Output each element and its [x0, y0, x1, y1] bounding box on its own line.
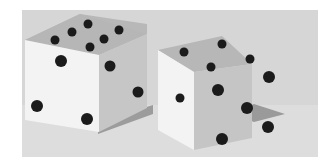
dice-illustration [22, 10, 318, 157]
left-die [25, 14, 153, 134]
dice-image [22, 10, 318, 157]
right-die-front-pips [176, 94, 185, 103]
